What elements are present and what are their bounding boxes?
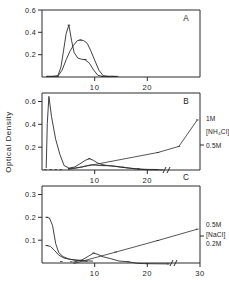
panel-a-xtick-label-20: 20 bbox=[142, 83, 152, 92]
panel-b-right-axis-label: [NH₄Cl] bbox=[206, 128, 229, 136]
panel-c-series-gradient bbox=[74, 229, 198, 263]
panel-b-xtick-label-10: 10 bbox=[90, 176, 100, 185]
panel-a-series-peak-1 bbox=[47, 25, 116, 76]
panel-a-xtick-label-10: 10 bbox=[90, 83, 100, 92]
y-axis-title-text: Optical Density bbox=[4, 111, 13, 172]
panel-b-letter: B bbox=[183, 97, 189, 106]
panel-c-right-axis-label: [NaCl] bbox=[206, 231, 226, 239]
chromatography-figure: Optical Density 0.6 0.4 0.2 10 20 A bbox=[0, 0, 229, 281]
panel-b-data-markers bbox=[44, 120, 199, 170]
panel-c-data-markers bbox=[45, 217, 198, 264]
panel-c-series-broad-peak bbox=[74, 253, 169, 264]
panel-c-right-bottom-label: 0.2M bbox=[206, 240, 221, 247]
panel-a-ytick-label-1: 0.2 bbox=[25, 50, 36, 59]
panel-b-right-top-label: 1M bbox=[206, 115, 216, 122]
panel-c-ytick-label-1: 0.1 bbox=[25, 236, 36, 245]
panel-b-ytick-label-2: 0.4 bbox=[25, 120, 36, 129]
panel-b: 0.6 0.4 0.2 10 20 B 1M [NH₄Cl] 0.5M bbox=[25, 93, 229, 185]
panel-c-xtick-label-20: 20 bbox=[142, 269, 152, 278]
panel-a-y-ticks bbox=[38, 10, 42, 55]
panel-b-ytick-label-1: 0.2 bbox=[25, 143, 36, 152]
panel-c-ytick-label-2: 0.2 bbox=[25, 213, 36, 222]
panel-a-series-peak-2 bbox=[47, 40, 116, 76]
panel-a-x-ticks bbox=[95, 77, 148, 81]
panel-b-series-void-spike bbox=[46, 96, 68, 167]
panel-b-right-bottom-label: 0.5M bbox=[206, 142, 221, 149]
panel-c-series-void-peak-high bbox=[47, 217, 87, 261]
panel-a-curves bbox=[47, 25, 116, 76]
panel-b-series-gradient bbox=[68, 120, 197, 170]
panel-c-ytick-label-3: 0.3 bbox=[25, 190, 36, 199]
panel-c-xtick-label-10: 10 bbox=[90, 269, 100, 278]
panel-b-y-ticks bbox=[38, 102, 42, 148]
panel-b-xtick-label-20: 20 bbox=[142, 176, 152, 185]
panel-a-data-markers bbox=[46, 25, 119, 76]
panel-c-xtick-label-30: 30 bbox=[195, 269, 205, 278]
panel-b-ytick-label-3: 0.6 bbox=[25, 97, 36, 106]
panel-c: 0.3 0.2 0.1 10 20 30 C 0.5M [NaCl] 0.2M bbox=[25, 173, 225, 278]
panel-a-letter: A bbox=[183, 14, 189, 23]
panel-c-letter: C bbox=[183, 173, 189, 182]
panel-b-right-axis: 1M [NH₄Cl] 0.5M bbox=[200, 115, 229, 149]
panel-b-series-broad-peak-1 bbox=[68, 159, 158, 170]
panel-b-x-ticks bbox=[95, 170, 148, 174]
panel-c-curves bbox=[47, 217, 198, 264]
y-axis-title: Optical Density bbox=[4, 111, 13, 172]
panel-b-curves bbox=[46, 96, 197, 169]
panel-a-ytick-label-2: 0.4 bbox=[25, 28, 36, 37]
panel-c-right-top-label: 0.5M bbox=[206, 221, 221, 228]
panel-a-ytick-label-3: 0.6 bbox=[25, 6, 36, 15]
panel-c-y-ticks bbox=[38, 195, 42, 241]
panel-a: 0.6 0.4 0.2 10 20 A bbox=[25, 6, 200, 92]
panel-c-right-axis: 0.5M [NaCl] 0.2M bbox=[200, 221, 226, 247]
